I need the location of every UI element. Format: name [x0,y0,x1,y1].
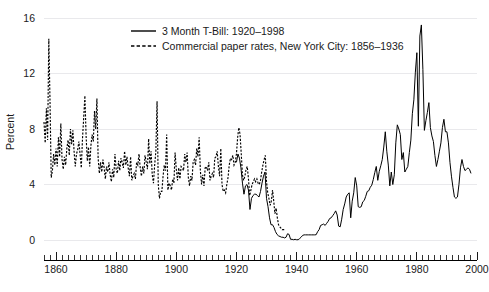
legend-label: 3 Month T-Bill: 1920–1998 [162,25,285,37]
x-tick-label: 2000 [465,263,489,275]
x-tick-label: 1940 [285,263,309,275]
y-tick-label: 4 [29,178,35,190]
y-tick-label: 12 [23,67,35,79]
y-axis-title: Percent [4,114,16,150]
y-tick-label: 16 [23,12,35,24]
x-tick-label: 1920 [225,263,249,275]
legend-label: Commercial paper rates, New York City: 1… [162,40,404,52]
y-tick-label: 0 [29,234,35,246]
time-series-chart: 0481216 18601880190019201940196019802000… [0,0,489,292]
chart-container: 0481216 18601880190019201940196019802000… [0,0,489,292]
x-tick-label: 1980 [405,263,429,275]
x-tick-label: 1880 [104,263,128,275]
x-tick-label: 1960 [345,263,369,275]
x-tick-label: 1860 [44,263,68,275]
x-tick-label: 1900 [165,263,189,275]
y-tick-label: 8 [29,123,35,135]
